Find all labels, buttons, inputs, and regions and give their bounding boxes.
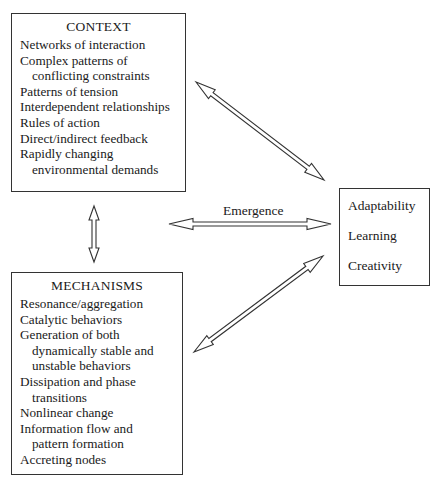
mechanisms-box: MECHANISMS Resonance/aggregation Catalyt…: [11, 272, 183, 475]
mechanisms-item-continuation: dynamically stable and: [20, 343, 182, 359]
mechanisms-item-text: Information flow and: [20, 421, 133, 436]
context-item-continuation: conflicting constraints: [20, 68, 185, 84]
mechanisms-title: MECHANISMS: [12, 277, 182, 294]
mechanisms-item: Accreting nodes: [20, 452, 182, 468]
mechanisms-item-text: Resonance/aggregation: [20, 296, 143, 311]
mechanisms-item-text: Nonlinear change: [20, 405, 113, 420]
context-item: Rapidly changingenvironmental demands: [20, 146, 185, 177]
mechanisms-item: Resonance/aggregation: [20, 296, 182, 312]
context-item: Patterns of tension: [20, 84, 185, 100]
outcomes-box: Adaptability Learning Creativity: [339, 188, 430, 286]
arrow-context-mechanisms: [89, 206, 99, 262]
mechanisms-item-continuation: unstable behaviors: [20, 358, 182, 374]
mechanisms-item-continuation: transitions: [20, 390, 182, 406]
context-item: Networks of interaction: [20, 37, 185, 53]
context-item-text: Direct/indirect feedback: [20, 131, 148, 146]
context-item-continuation: environmental demands: [20, 162, 185, 178]
outcome-learning: Learning: [348, 228, 397, 244]
context-item: Complex patterns ofconflicting constrain…: [20, 53, 185, 84]
context-item: Direct/indirect feedback: [20, 131, 185, 147]
context-item-text: Patterns of tension: [20, 84, 118, 99]
arrow-emergence: [169, 219, 331, 230]
context-item: Interdependent relationships: [20, 99, 185, 115]
context-item-text: Interdependent relationships: [20, 99, 170, 114]
context-title: CONTEXT: [12, 18, 185, 35]
context-item-text: Networks of interaction: [20, 37, 145, 52]
mechanisms-item-text: Generation of both: [20, 327, 120, 342]
mechanisms-item-text: Dissipation and phase: [20, 374, 136, 389]
emergence-label: Emergence: [223, 203, 283, 219]
mechanisms-item-text: Catalytic behaviors: [20, 312, 122, 327]
mechanisms-item-text: Accreting nodes: [20, 452, 106, 467]
mechanisms-item: Catalytic behaviors: [20, 312, 182, 328]
outcome-creativity: Creativity: [348, 258, 402, 274]
context-item: Rules of action: [20, 115, 185, 131]
context-box: CONTEXT Networks of interaction Complex …: [11, 13, 186, 192]
mechanisms-item: Generation of bothdynamically stable and…: [20, 327, 182, 374]
mechanisms-item: Nonlinear change: [20, 405, 182, 421]
context-item-text: Rules of action: [20, 115, 100, 130]
mechanisms-item: Information flow andpattern formation: [20, 421, 182, 452]
arrow-context-outcomes: [196, 82, 324, 180]
context-item-text: Complex patterns of: [20, 53, 128, 68]
context-list: Networks of interaction Complex patterns…: [12, 37, 185, 177]
arrow-mechanisms-outcomes: [194, 256, 323, 352]
mechanisms-item-continuation: pattern formation: [20, 436, 182, 452]
context-item-text: Rapidly changing: [20, 146, 113, 161]
mechanisms-item: Dissipation and phasetransitions: [20, 374, 182, 405]
mechanisms-list: Resonance/aggregation Catalytic behavior…: [12, 296, 182, 468]
outcome-adaptability: Adaptability: [348, 198, 416, 214]
